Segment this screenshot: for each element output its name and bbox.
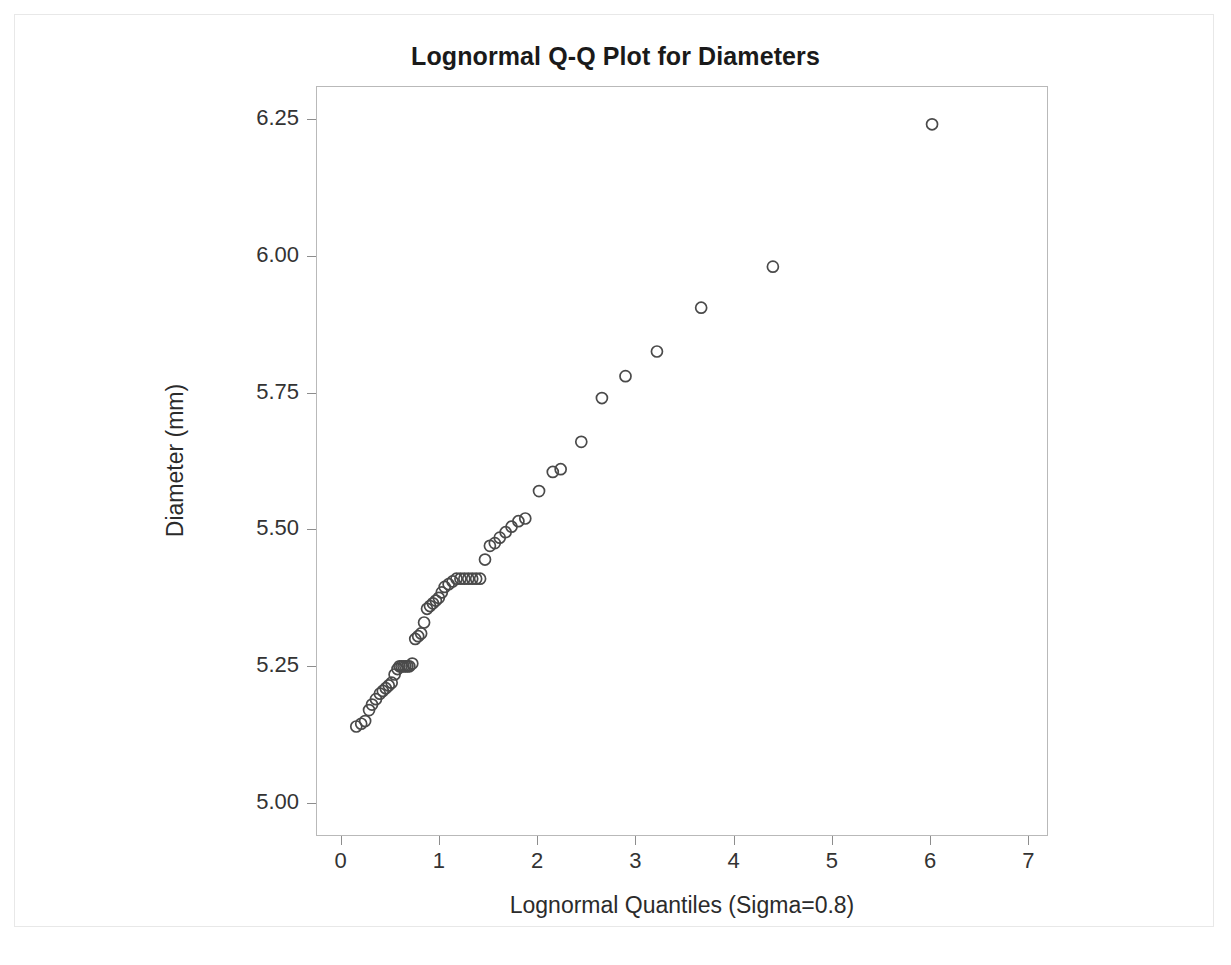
x-tick-mark [832,836,833,845]
x-tick-mark [635,836,636,845]
x-tick-label: 6 [900,848,960,874]
x-tick-label: 0 [311,848,371,874]
lognormal-qq-plot: Lognormal Q-Q Plot for Diameters 5.005.2… [0,0,1231,965]
x-tick-label: 7 [998,848,1058,874]
x-tick-mark [341,836,342,845]
x-tick-mark [930,836,931,845]
x-tick-mark [537,836,538,845]
y-tick-mark [307,119,316,120]
y-tick-label: 6.25 [179,105,299,131]
chart-title: Lognormal Q-Q Plot for Diameters [0,42,1231,71]
y-tick-mark [307,256,316,257]
x-tick-mark [734,836,735,845]
x-tick-label: 2 [507,848,567,874]
x-tick-label: 4 [704,848,764,874]
x-tick-mark [439,836,440,845]
y-tick-label: 5.50 [179,515,299,541]
y-tick-label: 5.25 [179,652,299,678]
y-tick-mark [307,666,316,667]
y-tick-mark [307,393,316,394]
x-tick-mark [1028,836,1029,845]
y-axis-label: Diameter (mm) [162,261,189,661]
x-tick-label: 3 [605,848,665,874]
plot-area-frame [316,86,1048,836]
y-tick-label: 6.00 [179,242,299,268]
x-tick-label: 1 [409,848,469,874]
y-tick-mark [307,803,316,804]
x-tick-label: 5 [802,848,862,874]
y-tick-label: 5.00 [179,789,299,815]
y-tick-label: 5.75 [179,379,299,405]
x-axis-label: Lognormal Quantiles (Sigma=0.8) [316,892,1048,919]
y-tick-mark [307,529,316,530]
